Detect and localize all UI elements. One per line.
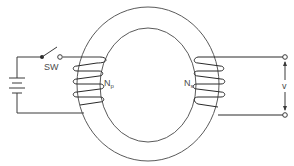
transformer-diagram: SW Np Ns <box>0 0 294 166</box>
battery-icon <box>9 57 25 113</box>
terminal-top <box>283 55 288 60</box>
output-voltage-label: v <box>282 81 287 91</box>
switch-label: SW <box>44 62 59 72</box>
core-inner-edge <box>100 28 196 142</box>
secondary-coil <box>193 57 283 115</box>
primary-circuit-wires <box>17 57 100 113</box>
switch-icon <box>40 47 62 59</box>
primary-turns-label: Np <box>104 78 115 89</box>
secondary-turns-label: Ns <box>184 78 194 89</box>
terminal-bottom <box>283 113 288 118</box>
